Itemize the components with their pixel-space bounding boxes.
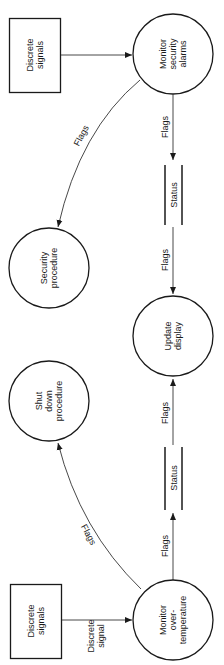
flow-label-line: signal	[96, 624, 106, 648]
flow-arrow-flags-to-shutdown-procedure	[58, 443, 141, 589]
flow-label-flags: Flags	[160, 402, 170, 425]
process-update-display: Update display	[133, 296, 213, 376]
process-monitor-security-alarms: Monitor security alarms	[133, 14, 213, 94]
process-label-line: procedure	[54, 381, 64, 422]
process-security-procedure: Security procedure	[9, 228, 89, 308]
process-monitor-over-temperature: Monitor over- temperature	[133, 580, 213, 660]
process-shutdown-procedure: Shut down procedure	[9, 361, 89, 441]
flow-label-flags: Flags	[160, 535, 170, 558]
process-label-line: Update	[163, 321, 173, 350]
process-label-line: Shut	[34, 391, 44, 410]
external-label-line: signals	[35, 40, 45, 69]
flow-label-flags: Flags	[160, 249, 170, 272]
external-label-line: signals	[36, 606, 46, 635]
process-label-line: over-	[168, 610, 178, 631]
process-label-line: down	[44, 390, 54, 412]
store-label: Status	[169, 465, 179, 491]
store-label: Status	[169, 182, 179, 208]
process-label-line: Security	[39, 251, 49, 284]
process-label-line: procedure	[49, 248, 59, 289]
flow-label-flags: Flags	[79, 523, 98, 548]
process-label-line: Monitor	[158, 39, 168, 69]
flow-label-flags: Flags	[160, 116, 170, 139]
process-label-line: temperature	[178, 596, 188, 645]
process-label-line: Monitor	[158, 605, 168, 635]
flow-label-line: Discrete	[86, 619, 96, 652]
data-flow-diagram: Discrete signals Monitor security alarms…	[0, 0, 224, 665]
process-label-line: alarms	[178, 40, 188, 68]
external-label-line: Discrete	[26, 604, 36, 637]
process-label-line: display	[173, 321, 183, 350]
external-entity-discrete-signals-bottom: Discrete signals	[11, 585, 62, 659]
external-label-line: Discrete	[25, 38, 35, 71]
data-store-status-top: Status	[165, 165, 182, 225]
flow-arrow-flags-to-security-procedure	[58, 80, 140, 227]
process-label-line: security	[168, 38, 178, 70]
external-entity-discrete-signals-top: Discrete signals	[10, 19, 61, 93]
data-store-status-bottom: Status	[165, 447, 182, 510]
